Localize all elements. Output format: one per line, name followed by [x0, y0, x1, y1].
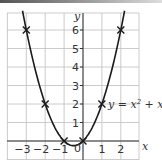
x-tick-label: −3: [14, 143, 30, 156]
tick-labels: −3−2−112123456: [14, 24, 124, 156]
y-tick-label: 5: [72, 43, 79, 56]
y-tick-label: 2: [72, 98, 79, 111]
x-axis-label: x: [142, 140, 149, 153]
origin-label: 0: [74, 142, 81, 155]
x-tick-label: 2: [117, 143, 124, 156]
x-tick-label: 1: [98, 143, 105, 156]
equation-lhs: y = x: [107, 98, 137, 111]
x-tick-label: −1: [52, 143, 68, 156]
parabola-chart: −3−2−112123456 x y 0 y = x2 + x: [0, 0, 162, 165]
y-tick-label: 1: [72, 117, 79, 130]
equation-label: y = x2 + x: [107, 98, 162, 111]
equation-rhs: + x: [141, 98, 162, 111]
y-tick-label: 3: [72, 80, 79, 93]
y-tick-label: 4: [72, 61, 79, 74]
y-axis-label: y: [73, 10, 81, 23]
x-tick-label: −2: [33, 143, 49, 156]
y-tick-label: 6: [72, 24, 79, 37]
